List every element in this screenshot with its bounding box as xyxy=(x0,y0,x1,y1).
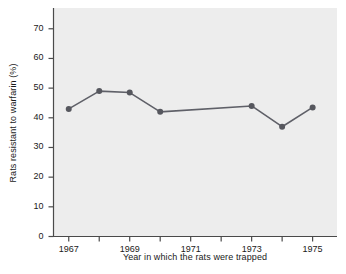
data-point xyxy=(279,124,285,130)
line-chart-canvas xyxy=(0,0,346,274)
y-tick-label: 20 xyxy=(22,171,44,181)
data-point xyxy=(310,104,316,110)
plot-area-background xyxy=(53,8,337,236)
y-tick-label: 70 xyxy=(22,23,44,33)
x-axis-title: Year in which the rats were trapped xyxy=(53,252,337,262)
y-tick-label: 50 xyxy=(22,82,44,92)
y-axis-title: Rats resistant to warfarin (%) xyxy=(8,48,18,198)
data-point xyxy=(157,109,163,115)
x-axis-tick-marks xyxy=(69,237,313,242)
y-axis-tick-marks xyxy=(49,29,54,237)
y-tick-label: 30 xyxy=(22,141,44,151)
y-tick-label: 60 xyxy=(22,52,44,62)
data-point xyxy=(96,88,102,94)
y-tick-label: 0 xyxy=(22,231,44,241)
data-point xyxy=(66,106,72,112)
data-point xyxy=(249,103,255,109)
chart-figure: 010203040506070 19671969197119731975 Rat… xyxy=(0,0,346,274)
y-tick-label: 10 xyxy=(22,201,44,211)
data-point xyxy=(127,90,133,96)
y-tick-label: 40 xyxy=(22,112,44,122)
